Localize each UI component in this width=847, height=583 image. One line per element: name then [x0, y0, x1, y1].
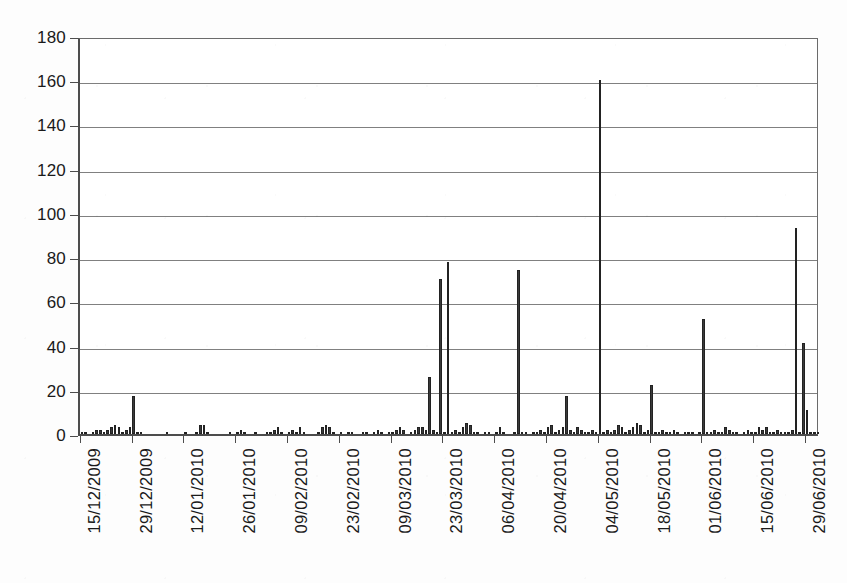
bar [110, 427, 113, 434]
bar [576, 427, 579, 434]
y-tick-mark [70, 38, 78, 39]
bar [809, 432, 812, 434]
y-tick-label: 100 [0, 206, 66, 223]
bar [713, 430, 716, 434]
bar [129, 427, 132, 434]
bar [728, 430, 731, 434]
y-tick-label: 60 [0, 294, 66, 311]
x-tick-mark [598, 436, 599, 443]
bar [295, 432, 298, 434]
bar [602, 432, 605, 434]
bar [266, 432, 269, 434]
bar [558, 430, 561, 434]
bar [584, 432, 587, 434]
y-tick-mark [70, 215, 78, 216]
bar [661, 430, 664, 434]
bar [780, 432, 783, 434]
bar [417, 427, 420, 434]
bar [569, 430, 572, 434]
bar [321, 427, 324, 434]
y-tick-label: 80 [0, 250, 66, 267]
y-tick-mark [70, 126, 78, 127]
bar [643, 432, 646, 434]
bar [443, 432, 446, 434]
bar [206, 432, 209, 434]
bar [499, 427, 502, 434]
bar [769, 432, 772, 434]
x-tick-label: 23/02/2010 [345, 448, 362, 534]
bar [758, 427, 761, 434]
x-tick-mark [650, 436, 651, 443]
x-tick-mark [183, 436, 184, 443]
bar [628, 430, 631, 434]
bar [536, 432, 539, 434]
bar [676, 432, 679, 434]
bar [702, 319, 705, 434]
bar [351, 432, 354, 434]
bar [673, 430, 676, 434]
bar [691, 432, 694, 434]
bar [698, 432, 701, 434]
bar [787, 432, 790, 434]
bar [776, 430, 779, 434]
bar [447, 262, 450, 434]
bar [595, 432, 598, 434]
plot-area [78, 38, 818, 436]
bar [125, 430, 128, 434]
y-tick-label: 120 [0, 162, 66, 179]
bar [802, 343, 805, 434]
bar [624, 432, 627, 434]
bar [240, 430, 243, 434]
bar [99, 430, 102, 434]
bar [721, 432, 724, 434]
bar [517, 270, 520, 434]
y-tick-label: 140 [0, 117, 66, 134]
bar [817, 432, 820, 434]
x-tick-mark [546, 436, 547, 443]
bar [199, 425, 202, 434]
bar [103, 432, 106, 434]
bar [513, 432, 516, 434]
bar [654, 432, 657, 434]
bar [772, 432, 775, 434]
bar [380, 432, 383, 434]
y-tick-label: 0 [0, 427, 66, 444]
bar [303, 432, 306, 434]
y-tick-mark [70, 259, 78, 260]
x-tick-mark [701, 436, 702, 443]
bar [280, 432, 283, 434]
bar [750, 432, 753, 434]
bar [580, 430, 583, 434]
x-axis: 15/12/200929/12/200912/01/201026/01/2010… [78, 436, 818, 583]
bar [114, 425, 117, 434]
bar [761, 430, 764, 434]
bar [451, 432, 454, 434]
y-tick-mark [70, 392, 78, 393]
bar [613, 430, 616, 434]
x-tick-mark [442, 436, 443, 443]
bar [735, 432, 738, 434]
bar [621, 427, 624, 434]
bar [458, 432, 461, 434]
x-tick-label: 09/03/2010 [397, 448, 414, 534]
bar [710, 432, 713, 434]
bar [410, 432, 413, 434]
bar [525, 432, 528, 434]
x-tick-label: 15/12/2009 [86, 448, 103, 534]
bar [432, 430, 435, 434]
bar [591, 430, 594, 434]
bar [421, 427, 424, 434]
bar [291, 430, 294, 434]
bar [562, 427, 565, 434]
bar [658, 432, 661, 434]
bar [784, 432, 787, 434]
x-tick-label: 29/06/2010 [811, 448, 828, 534]
bar [391, 432, 394, 434]
bar [747, 430, 750, 434]
bar [791, 430, 794, 434]
bar [599, 80, 602, 434]
bar [606, 430, 609, 434]
bar [243, 432, 246, 434]
bar [587, 432, 590, 434]
bar [84, 432, 87, 434]
